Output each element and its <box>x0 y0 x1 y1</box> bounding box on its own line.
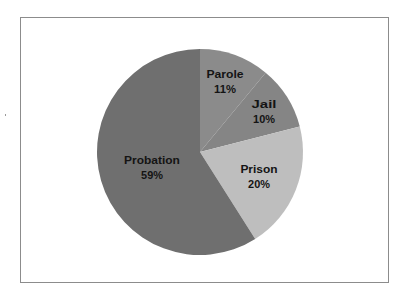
pie-slices <box>97 49 303 255</box>
slice-value-prison: 20% <box>248 178 270 190</box>
slice-value-parole: 11% <box>214 83 236 95</box>
pie-chart: Parole11%Jail10%Prison20%Probation59% <box>0 0 406 306</box>
slice-value-probation: 59% <box>141 169 163 181</box>
slice-label-probation: Probation <box>124 154 180 166</box>
slice-value-jail: 10% <box>253 113 275 125</box>
slice-label-jail: Jail <box>252 98 277 110</box>
slice-label-parole: Parole <box>206 68 243 80</box>
slice-label-prison: Prison <box>240 163 277 175</box>
